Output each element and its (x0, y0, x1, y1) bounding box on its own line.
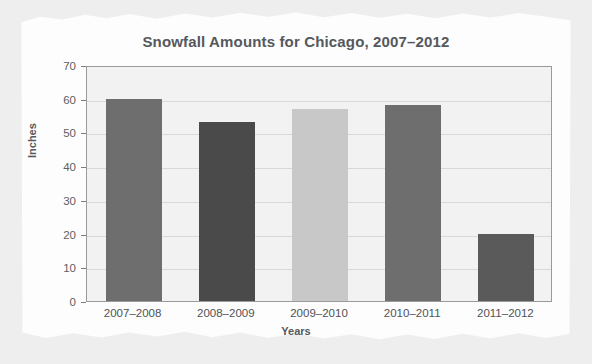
x-axis-tick-label: 2008–2009 (180, 307, 272, 319)
y-axis-tick-label: 20 (34, 229, 76, 241)
bar-chart-figure: Snowfall Amounts for Chicago, 2007–2012 … (0, 0, 592, 364)
x-axis-title: Years (0, 325, 592, 337)
y-axis-tick-label: 60 (34, 94, 76, 106)
bar (478, 234, 534, 301)
y-axis-tick-label: 70 (34, 60, 76, 72)
bar (199, 122, 255, 301)
y-axis-tick-label: 0 (34, 296, 76, 308)
y-axis-tick-label: 30 (34, 195, 76, 207)
x-axis-tick-label: 2011–2012 (459, 307, 551, 319)
plot-area (86, 66, 552, 302)
y-axis-tick-label: 10 (34, 262, 76, 274)
y-axis-tick-mark (81, 302, 86, 303)
bar (292, 109, 348, 301)
bar (385, 105, 441, 301)
y-axis-tick-label: 50 (34, 127, 76, 139)
x-axis-tick-label: 2009–2010 (273, 307, 365, 319)
y-axis-tick-label: 40 (34, 161, 76, 173)
x-axis-tick-label: 2010–2011 (366, 307, 458, 319)
bars-group (87, 67, 551, 301)
chart-title: Snowfall Amounts for Chicago, 2007–2012 (0, 33, 592, 50)
x-axis-tick-label: 2007–2008 (87, 307, 179, 319)
bar (106, 99, 162, 301)
